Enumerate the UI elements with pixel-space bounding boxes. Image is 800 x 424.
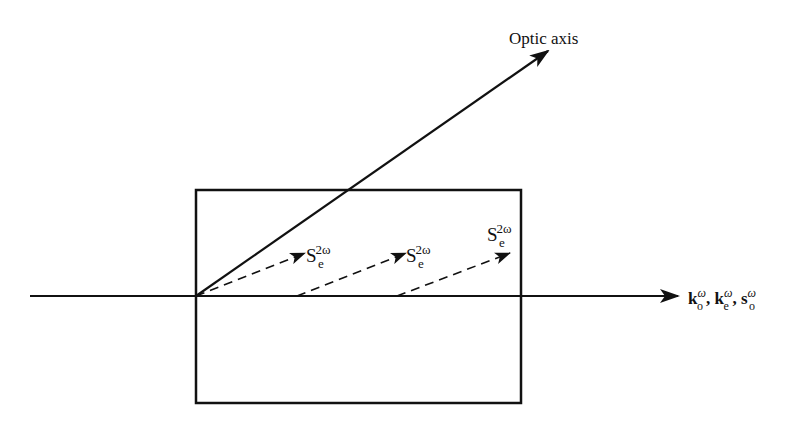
poynting-label-3-sup: 2ω xyxy=(497,221,512,236)
poynting-label-3-sub: e xyxy=(499,236,505,249)
poynting-label-1-sub: e xyxy=(318,257,324,270)
poynting-arrow-1 xyxy=(196,253,305,296)
wavevector-ke: kωe, xyxy=(714,290,736,307)
poynting-label-3: S2ωe xyxy=(487,225,513,244)
poynting-label-2-sup: 2ω xyxy=(416,242,431,257)
wavevector-ko: kωo, xyxy=(688,290,710,307)
poynting-label-2-base: S xyxy=(406,245,417,266)
poynting-label-1: S2ωe xyxy=(306,246,332,265)
beam-axis-label: kωo, kωe, sωo xyxy=(688,290,756,307)
poynting-label-1-base: S xyxy=(306,245,317,266)
poynting-label-2: S2ωe xyxy=(406,246,432,265)
optic-axis-arrow xyxy=(196,51,548,296)
birefringent-crystal-diagram: Optic axis S2ωe S2ωe S2ωe kωo, kωe, sωo xyxy=(0,0,800,424)
poynting-so: sωo xyxy=(741,290,756,307)
poynting-label-2-sub: e xyxy=(418,257,424,270)
optic-axis-label: Optic axis xyxy=(509,30,578,47)
poynting-label-1-sup: 2ω xyxy=(316,242,331,257)
poynting-label-3-base: S xyxy=(487,224,498,245)
diagram-canvas xyxy=(0,0,800,424)
